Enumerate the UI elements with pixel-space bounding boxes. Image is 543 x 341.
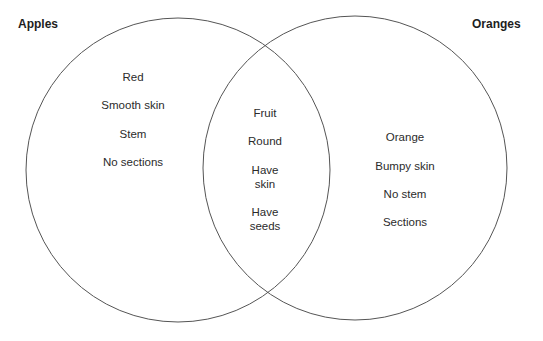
- apples-item: Smooth skin: [101, 98, 164, 112]
- overlap-item-line: skin: [252, 177, 279, 191]
- overlap-item-line: Have: [250, 205, 281, 219]
- overlap-item: Have seeds: [250, 205, 281, 233]
- oranges-item: Sections: [383, 215, 427, 229]
- overlap-item: Have skin: [252, 163, 279, 191]
- oranges-item: Bumpy skin: [375, 159, 434, 173]
- oranges-circle: [203, 16, 507, 320]
- oranges-item: No stem: [384, 187, 427, 201]
- oranges-item: Orange: [386, 130, 424, 144]
- overlap-item: Fruit: [254, 106, 277, 120]
- oranges-label: Oranges: [472, 17, 521, 31]
- apples-item: Stem: [120, 127, 147, 141]
- overlap-item-line: seeds: [250, 219, 281, 233]
- apples-circle: [26, 18, 330, 322]
- apples-item: No sections: [103, 155, 163, 169]
- apples-item: Red: [122, 70, 143, 84]
- apples-label: Apples: [18, 17, 58, 31]
- overlap-item: Round: [248, 134, 282, 148]
- overlap-item-line: Have: [252, 163, 279, 177]
